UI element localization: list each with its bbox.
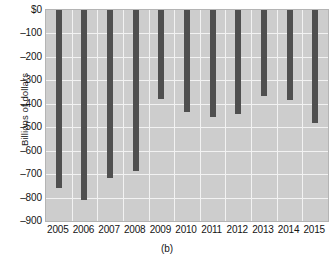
- gridline-vertical: [174, 10, 175, 221]
- gridline-horizontal: [46, 174, 328, 175]
- bar-2008: [133, 10, 139, 171]
- y-axis-tick-label: –500: [0, 121, 42, 132]
- gridline-horizontal: [46, 198, 328, 199]
- plot-area: [45, 9, 329, 222]
- gridline-vertical: [302, 10, 303, 221]
- bar-2005: [56, 10, 62, 188]
- y-axis-tick-label: –200: [0, 50, 42, 61]
- y-axis-tick-label: –300: [0, 74, 42, 85]
- y-axis-tick-label: $0: [0, 4, 42, 15]
- gridline-vertical: [200, 10, 201, 221]
- gridline-vertical: [97, 10, 98, 221]
- y-axis-tick-label: –400: [0, 97, 42, 108]
- y-axis-tick-label: –100: [0, 27, 42, 38]
- bar-2009: [158, 10, 164, 99]
- bar-2015: [312, 10, 318, 123]
- gridline-vertical: [277, 10, 278, 221]
- y-axis-tick-label: –700: [0, 168, 42, 179]
- x-axis-tick-labels: 2005200620072008200920102011201220132014…: [45, 224, 329, 240]
- y-axis-tick-label: –800: [0, 191, 42, 202]
- gridline-horizontal: [46, 127, 328, 128]
- bar-2006: [81, 10, 87, 200]
- bar-2014: [287, 10, 293, 100]
- gridline-horizontal: [46, 151, 328, 152]
- gridline-vertical: [72, 10, 73, 221]
- bar-2012: [235, 10, 241, 114]
- figure-panel: Billions of dollars $0–100–200–300–400–5…: [0, 0, 334, 263]
- figure-caption: (b): [0, 243, 334, 254]
- bar-2010: [184, 10, 190, 112]
- y-axis-tick-label: –600: [0, 144, 42, 155]
- y-axis-tick-labels: $0–100–200–300–400–500–600–700–800–900: [0, 0, 42, 263]
- bar-2007: [107, 10, 113, 178]
- bar-2011: [210, 10, 216, 117]
- x-axis-tick-label: 2015: [294, 224, 334, 235]
- y-axis-tick-label: –900: [0, 215, 42, 226]
- gridline-vertical: [149, 10, 150, 221]
- gridline-vertical: [225, 10, 226, 221]
- gridline-horizontal: [46, 221, 328, 222]
- bar-2013: [261, 10, 267, 96]
- gridline-vertical: [251, 10, 252, 221]
- gridline-vertical: [123, 10, 124, 221]
